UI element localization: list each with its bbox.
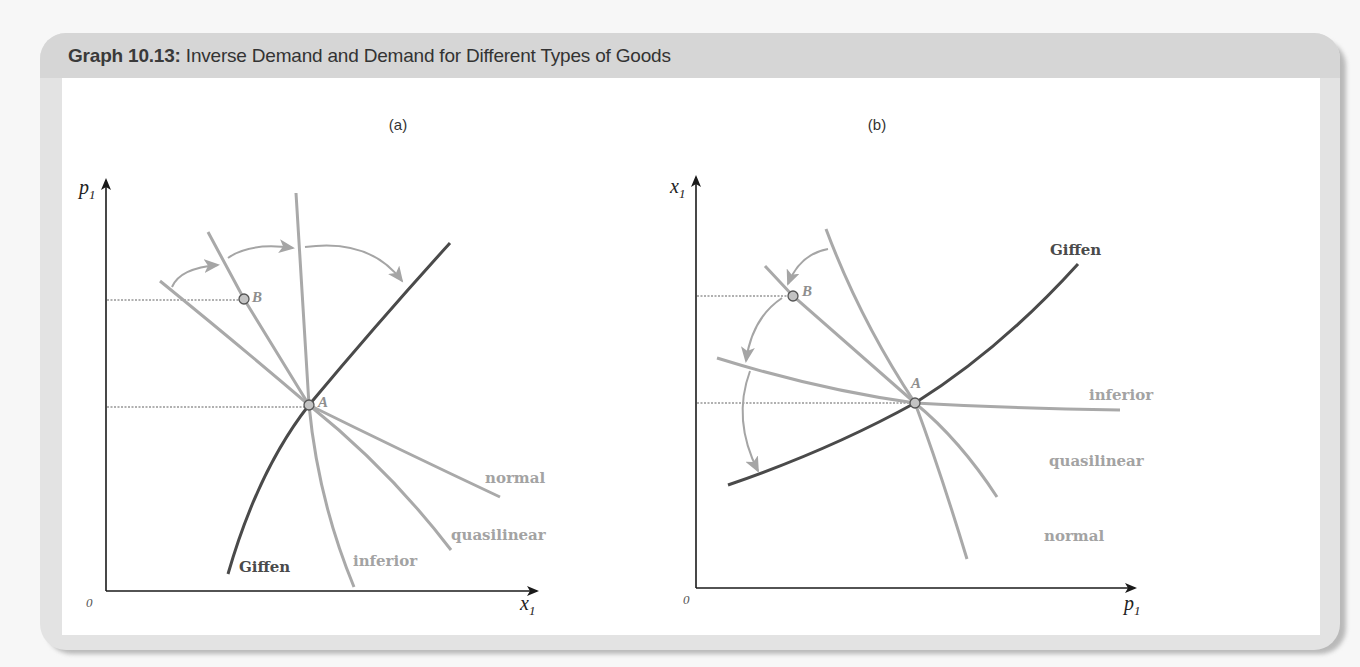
graph-a-point-a-label: A [317,394,328,410]
graph-b-point-a [910,398,920,408]
diagram-canvas: (a) p1 x1 0 B A normal quasilinear infer… [0,0,1360,667]
graph-b-normal-label: normal [1044,527,1104,545]
graph-b-x-label: p1 [1122,592,1141,618]
graph-b-point-b [788,291,798,301]
graph-a-normal-curve [160,281,500,497]
graph-a-giffen-label: Giffen [239,558,290,576]
graph-a-arrow-3 [305,245,402,281]
graph-b-y-label: x1 [669,175,685,201]
graph-a-point-a [304,400,314,410]
graph-a-inferior-label: inferior [353,552,418,570]
graph-b-arrow-1 [788,249,828,284]
graph-b-point-b-label: B [801,283,812,299]
graph-b-arrow-2 [746,298,782,361]
graph-a-quasilinear-label: quasilinear [451,526,547,544]
graph-b-giffen-curve [728,264,1078,485]
graph-a-y-label: p1 [77,176,96,202]
graph-a-x-label: x1 [519,592,535,618]
graph-b-normal-curve [826,229,967,559]
graph-a-origin: 0 [86,595,93,610]
graph-a-quasilinear-curve [208,232,451,550]
graph-a-arrow-2 [228,246,293,258]
graph-a: (a) p1 x1 0 B A normal quasilinear infer… [77,116,547,618]
graph-b-arrow-3 [743,371,758,471]
graph-a-label: (a) [389,116,407,133]
graph-b-label: (b) [868,116,886,133]
graph-b-point-a-label: A [910,375,921,391]
graph-a-arrow-1 [172,265,218,287]
graph-b-quasilinear-label: quasilinear [1049,452,1145,470]
graph-b-origin: 0 [683,592,690,607]
graph-a-point-b-label: B [251,289,262,305]
graph-b-giffen-label: Giffen [1050,241,1101,259]
graph-a-point-b [239,294,249,304]
graph-b: (b) x1 p1 0 B A Giffen inferior quasilin… [669,116,1154,618]
graph-a-normal-label: normal [485,469,545,487]
graph-a-inferior-curve [296,193,354,587]
graph-b-inferior-label: inferior [1089,386,1154,404]
